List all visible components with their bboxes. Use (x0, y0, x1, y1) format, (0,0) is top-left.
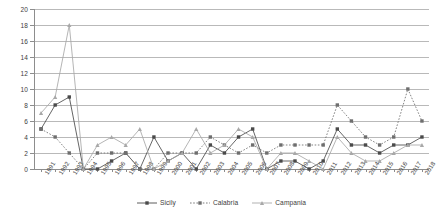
gridline (34, 121, 429, 122)
gridline (34, 105, 429, 106)
gridline (34, 153, 429, 154)
y-tick-mark (30, 105, 34, 106)
y-tick-mark (30, 169, 34, 170)
y-axis-label: 0 (2, 166, 28, 173)
y-tick-mark (30, 137, 34, 138)
legend-swatch-campania (252, 199, 272, 207)
legend-label: Campania (275, 199, 306, 207)
legend-label: Sicily (160, 199, 176, 207)
legend-item-campania[interactable]: Campania (252, 199, 306, 207)
y-tick-mark (30, 9, 34, 10)
gridline (34, 57, 429, 58)
y-tick-mark (30, 73, 34, 74)
data-point-marker (145, 201, 148, 204)
y-tick-mark (30, 121, 34, 122)
chart-legend: SicilyCalabriaCampania (0, 196, 443, 210)
y-tick-mark (30, 25, 34, 26)
legend-item-calabria[interactable]: Calabria (190, 199, 238, 207)
data-point-marker (198, 201, 201, 204)
y-axis-label: 16 (2, 38, 28, 45)
y-tick-mark (30, 89, 34, 90)
gridline (34, 89, 429, 90)
legend-swatch-sicily (137, 199, 157, 207)
y-axis-line (34, 9, 35, 170)
gridline (34, 137, 429, 138)
y-tick-mark (30, 153, 34, 154)
y-axis-label: 20 (2, 6, 28, 13)
legend-label: Calabria (213, 199, 238, 207)
y-tick-mark (30, 41, 34, 42)
y-tick-mark (30, 57, 34, 58)
line-chart: 02468101214161820 1991199219931994199519… (0, 0, 443, 222)
gridline (34, 41, 429, 42)
plot-area (34, 9, 429, 169)
y-axis-label: 18 (2, 22, 28, 29)
y-axis-label: 14 (2, 54, 28, 61)
y-axis-label: 12 (2, 70, 28, 77)
y-axis-label: 2 (2, 150, 28, 157)
gridline (34, 25, 429, 26)
legend-item-sicily[interactable]: Sicily (137, 199, 176, 207)
gridline (34, 73, 429, 74)
y-axis-label: 10 (2, 86, 28, 93)
y-axis-label: 4 (2, 134, 28, 141)
y-axis-label: 8 (2, 102, 28, 109)
gridline (34, 9, 429, 10)
legend-swatch-calabria (190, 199, 210, 207)
y-axis-label: 6 (2, 118, 28, 125)
